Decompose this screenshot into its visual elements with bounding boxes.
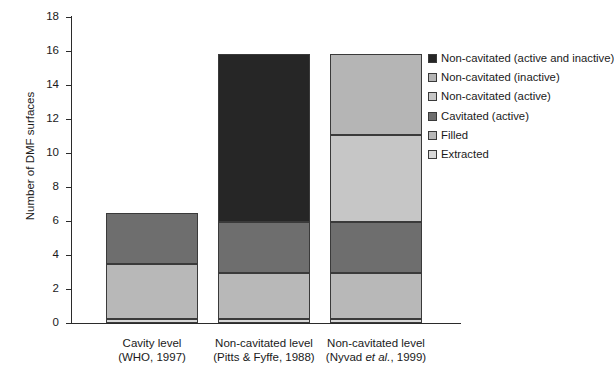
legend-item[interactable]: Cavitated (active) <box>428 107 612 126</box>
y-tick-label-0: 0 <box>33 317 59 329</box>
x-axis-label-line1: Cavity level <box>123 337 182 349</box>
bar-segment <box>218 222 310 273</box>
bar-segment <box>330 54 422 135</box>
bar-segment <box>106 319 198 323</box>
y-axis-title: Number of DMF surfaces <box>24 66 36 246</box>
legend-label: Non-cavitated (active and inactive) <box>441 53 614 64</box>
y-tick-12 <box>66 119 72 120</box>
y-axis-line <box>71 16 72 323</box>
bar-segment <box>218 273 310 319</box>
y-tick-label-6: 6 <box>33 215 59 227</box>
bar-segment <box>218 54 310 221</box>
legend-label: Filled <box>441 130 468 141</box>
legend-swatch-icon <box>428 92 437 101</box>
x-axis-label-italic: et al. <box>365 351 390 363</box>
legend-label: Extracted <box>441 149 489 160</box>
y-tick-6 <box>66 221 72 222</box>
y-tick-16 <box>66 51 72 52</box>
bar-1 <box>106 17 198 323</box>
y-tick-4 <box>66 255 72 256</box>
legend-item[interactable]: Extracted <box>428 145 612 164</box>
legend-swatch-icon <box>428 54 437 63</box>
legend-item[interactable]: Filled <box>428 126 612 145</box>
bar-segment <box>106 213 198 265</box>
y-tick-label-8: 8 <box>33 181 59 193</box>
y-tick-2 <box>66 289 72 290</box>
bar-segment <box>330 273 422 319</box>
legend-swatch-icon <box>428 131 437 140</box>
y-tick-label-18: 18 <box>33 11 59 23</box>
x-axis-label-line2: (Nyvad et al., 1999) <box>286 350 466 364</box>
x-axis-label-3: Non-cavitated level(Nyvad et al., 1999) <box>286 336 466 364</box>
legend-swatch-icon <box>428 112 437 121</box>
bar-segment <box>330 222 422 273</box>
legend-item[interactable]: Non-cavitated (active and inactive) <box>428 49 612 68</box>
y-tick-18 <box>66 17 72 18</box>
y-tick-label-2: 2 <box>33 283 59 295</box>
legend-label: Non-cavitated (active) <box>441 91 551 102</box>
legend-label: Non-cavitated (inactive) <box>441 72 560 83</box>
bar-segment <box>330 135 422 222</box>
legend-item[interactable]: Non-cavitated (active) <box>428 87 612 106</box>
y-tick-10 <box>66 153 72 154</box>
legend-swatch-icon <box>428 150 437 159</box>
y-tick-label-10: 10 <box>33 147 59 159</box>
bar-segment <box>218 319 310 323</box>
y-tick-14 <box>66 85 72 86</box>
legend-swatch-icon <box>428 73 437 82</box>
bar-2 <box>218 17 310 323</box>
y-tick-label-4: 4 <box>33 249 59 261</box>
bar-segment <box>106 264 198 318</box>
chart-legend: Non-cavitated (active and inactive)Non-c… <box>428 49 612 164</box>
bar-segment <box>330 319 422 323</box>
y-tick-label-14: 14 <box>33 79 59 91</box>
legend-item[interactable]: Non-cavitated (inactive) <box>428 68 612 87</box>
y-tick-label-12: 12 <box>33 113 59 125</box>
x-axis-label-line1: Non-cavitated level <box>327 337 425 349</box>
y-tick-8 <box>66 187 72 188</box>
y-tick-label-16: 16 <box>33 45 59 57</box>
bar-3 <box>330 17 422 323</box>
x-axis-line <box>71 323 461 324</box>
legend-label: Cavitated (active) <box>441 111 529 122</box>
